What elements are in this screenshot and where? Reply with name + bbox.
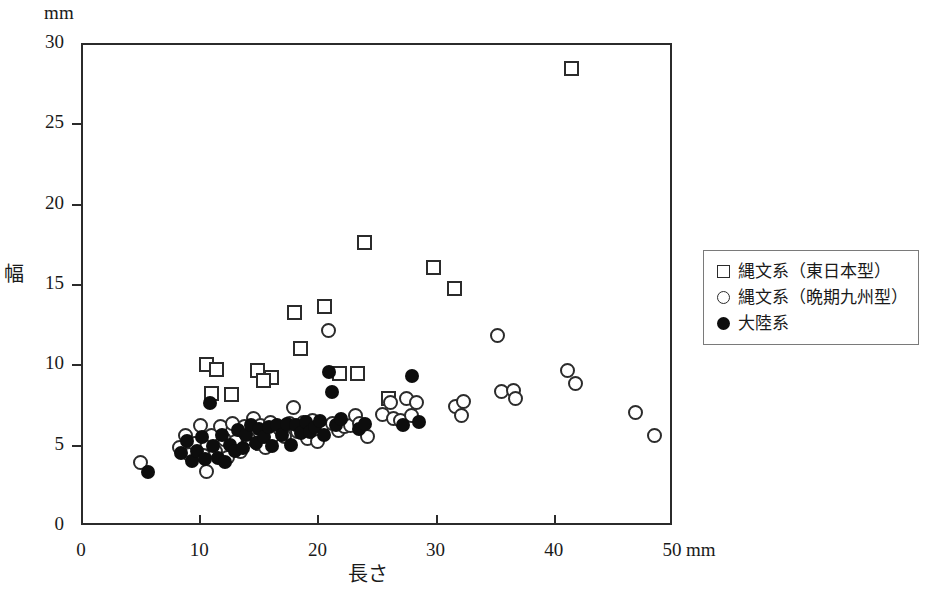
legend-item: 縄文系（晩期九州型） xyxy=(714,284,908,310)
y-tick-label: 0 xyxy=(30,513,64,535)
data-point xyxy=(396,418,410,432)
x-tick-label: 0 xyxy=(61,539,101,561)
legend-item: 大陸系 xyxy=(714,310,908,336)
x-tick-label: 50 xyxy=(652,539,692,561)
data-point xyxy=(209,362,224,377)
x-tick-label: 10 xyxy=(179,539,219,561)
data-point xyxy=(564,61,579,76)
y-tick-mark xyxy=(72,445,81,447)
x-tick-mark xyxy=(436,515,438,525)
open-circle-icon-glyph xyxy=(717,291,730,304)
x-tick-label: 30 xyxy=(416,539,456,561)
data-point xyxy=(647,428,662,443)
data-point xyxy=(334,412,348,426)
y-tick-mark xyxy=(72,284,81,286)
scatter-plot-figure: mm 幅 長さ mm 051015202530 01020304050 縄文系（… xyxy=(0,0,929,589)
filled-circle-icon xyxy=(714,317,732,330)
data-point xyxy=(236,441,250,455)
data-point xyxy=(358,417,372,431)
legend-item-label: 大陸系 xyxy=(738,315,789,332)
y-tick-label: 25 xyxy=(30,111,64,133)
x-tick-mark xyxy=(554,515,556,525)
filled-circle-icon-glyph xyxy=(717,317,730,330)
y-axis-title: 幅 xyxy=(4,258,24,287)
y-tick-mark xyxy=(72,204,81,206)
y-tick-label: 20 xyxy=(30,192,64,214)
data-point xyxy=(224,387,239,402)
y-tick-label: 10 xyxy=(30,352,64,374)
legend: 縄文系（東日本型）縄文系（晩期九州型）大陸系 xyxy=(703,250,919,345)
x-tick-mark xyxy=(199,515,201,525)
data-point xyxy=(426,260,441,275)
data-point xyxy=(508,391,523,406)
x-tick-mark xyxy=(317,515,319,525)
open-circle-icon xyxy=(714,291,732,304)
data-point xyxy=(313,414,327,428)
open-square-icon xyxy=(714,265,732,278)
y-tick-mark xyxy=(72,123,81,125)
data-point xyxy=(293,341,308,356)
data-point xyxy=(321,323,336,338)
data-point xyxy=(405,369,419,383)
y-tick-label: 30 xyxy=(30,31,64,53)
plot-area xyxy=(81,43,672,525)
data-point xyxy=(447,281,462,296)
data-point xyxy=(490,328,505,343)
legend-item-label: 縄文系（東日本型） xyxy=(738,263,891,280)
data-point xyxy=(284,438,298,452)
x-tick-label: 20 xyxy=(297,539,337,561)
y-tick-label: 15 xyxy=(30,272,64,294)
data-point xyxy=(256,373,271,388)
legend-item: 縄文系（東日本型） xyxy=(714,258,908,284)
x-axis-title: 長さ xyxy=(348,558,388,587)
y-axis-unit-label: mm xyxy=(44,2,74,24)
data-point xyxy=(325,385,339,399)
axis-frame xyxy=(81,43,672,525)
y-tick-label: 5 xyxy=(30,433,64,455)
open-square-icon-glyph xyxy=(717,265,730,278)
x-tick-label: 40 xyxy=(534,539,574,561)
data-point xyxy=(357,235,372,250)
data-point xyxy=(628,405,643,420)
legend-item-label: 縄文系（晩期九州型） xyxy=(738,289,908,306)
data-point xyxy=(287,305,302,320)
data-point xyxy=(203,396,217,410)
data-point xyxy=(568,376,583,391)
data-point xyxy=(317,299,332,314)
y-tick-mark xyxy=(72,364,81,366)
data-point xyxy=(350,366,365,381)
